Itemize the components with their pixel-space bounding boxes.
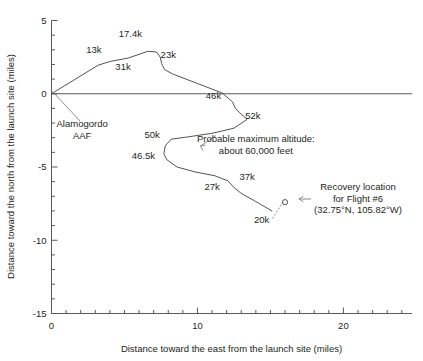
annotation-line: about 60,000 feet xyxy=(219,145,293,156)
altitude-label: 20k xyxy=(254,214,270,225)
annotation-line: AAF xyxy=(73,130,92,141)
altitude-label: 46.5k xyxy=(132,150,155,161)
annotation-line: Probable maximum altitude: xyxy=(197,133,315,144)
x-tick-label: 20 xyxy=(338,320,349,331)
x-tick-label: 0 xyxy=(49,320,54,331)
y-tick-label: 0 xyxy=(41,88,46,99)
y-tick-label: -10 xyxy=(33,235,47,246)
altitude-label: 27k xyxy=(204,181,220,192)
altitude-label: 31k xyxy=(115,61,131,72)
chart-figure: 0102050-5-10-15 13k17.4k31k23k46k52k50k4… xyxy=(0,0,423,361)
altitude-label: 50k xyxy=(145,129,161,140)
annotation-line: Alamogordo xyxy=(57,118,108,129)
altitude-label: 17.4k xyxy=(119,28,142,39)
annotation-line: Recovery location xyxy=(320,181,396,192)
altitude-label: 13k xyxy=(86,44,102,55)
y-tick-label: -15 xyxy=(33,308,47,319)
altitude-label: 37k xyxy=(239,171,255,182)
y-axis-title: Distance toward the north from the launc… xyxy=(5,54,16,279)
annotation-line: (32.75°N, 105.82°W) xyxy=(314,204,402,215)
y-tick-label: 5 xyxy=(41,15,46,26)
altitude-label: 46k xyxy=(206,90,222,101)
x-axis-title: Distance toward the east from the launch… xyxy=(121,343,342,354)
altitude-label: 23k xyxy=(161,49,177,60)
y-tick-label: -5 xyxy=(38,161,46,172)
x-tick-label: 10 xyxy=(192,320,203,331)
annotation-line: for Flight #6 xyxy=(333,193,383,204)
altitude-label: 52k xyxy=(245,110,261,121)
flight-track-chart: 0102050-5-10-15 13k17.4k31k23k46k52k50k4… xyxy=(0,0,423,361)
